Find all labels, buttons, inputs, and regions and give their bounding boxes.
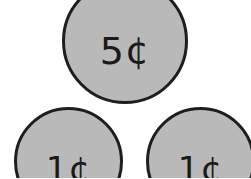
nickel-coin: 5¢ [62,0,188,104]
penny-coin-right: 1¢ [146,107,251,178]
penny-coin-left: 1¢ [14,107,123,178]
coin-label: 5¢ [100,29,150,73]
coin-label: 1¢ [178,149,223,179]
coin-label: 1¢ [46,149,91,179]
